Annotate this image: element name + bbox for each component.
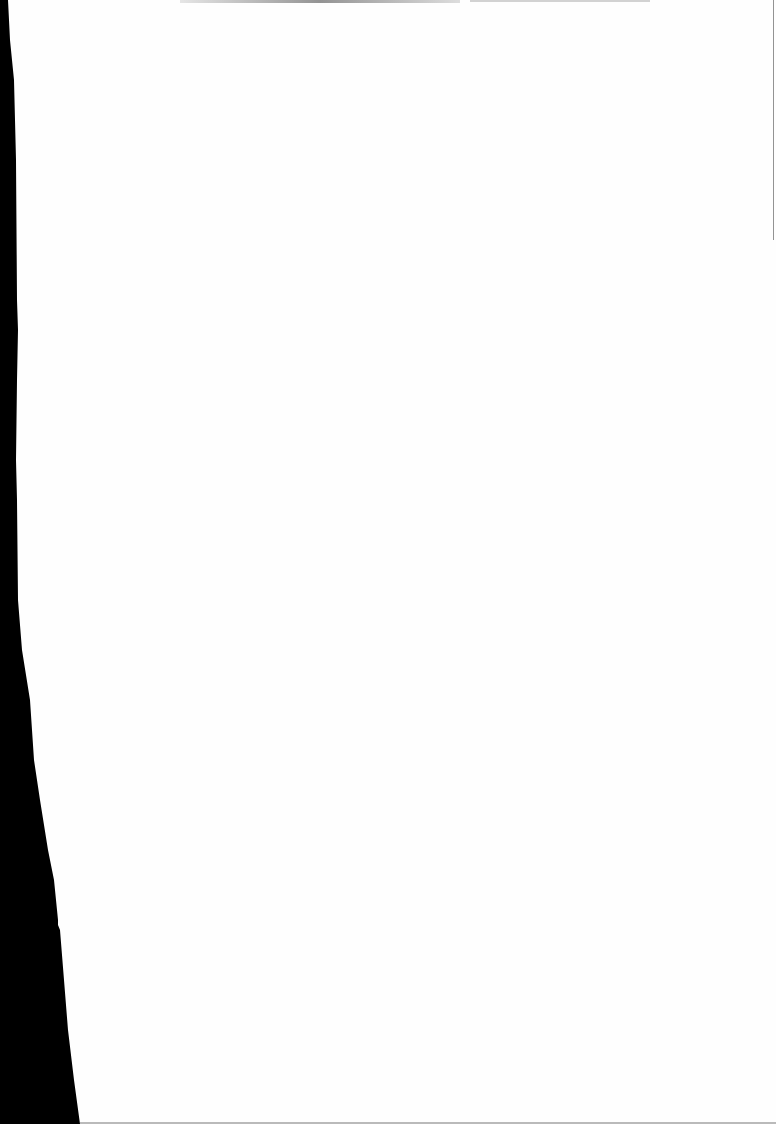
scanned-page bbox=[0, 0, 776, 1124]
scanner-black-edge bbox=[0, 0, 776, 1124]
